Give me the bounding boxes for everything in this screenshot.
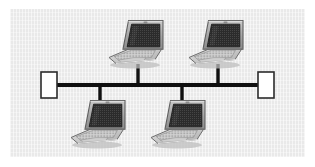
terminator-right[interactable] xyxy=(258,72,274,98)
network-diagram: bus xyxy=(0,0,315,167)
bus-cable-group xyxy=(50,64,266,102)
laptop-bottom-left[interactable] xyxy=(71,101,125,149)
laptop-top-right[interactable] xyxy=(189,21,243,69)
terminator-left-box[interactable] xyxy=(41,72,57,98)
laptop-top-left[interactable] xyxy=(109,21,163,69)
topology-svg xyxy=(0,0,315,167)
laptop-bottom-right[interactable] xyxy=(151,101,205,149)
terminator-right-box[interactable] xyxy=(258,72,274,98)
terminator-left[interactable] xyxy=(41,72,57,98)
